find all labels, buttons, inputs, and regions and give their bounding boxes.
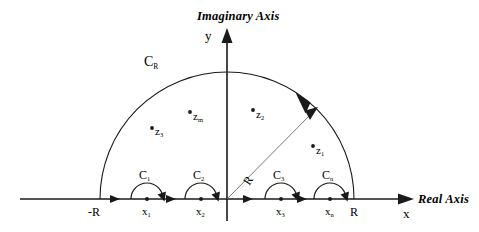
axis-direction-arrow-1 [110,195,120,203]
axis-pole-label-x1-text: x [142,205,148,217]
small-arc-label-Cn-text: C [322,168,330,182]
axis-pole-label-x2: x2 [196,206,205,217]
axis-pole-label-xn-text: x [325,205,331,217]
axis-pole-label-xn-subscript: n [331,211,334,218]
small-arc-C2 [185,183,217,199]
pole-label-z3-subscript: 3 [160,131,163,138]
real-axis-label: Real Axis [418,193,469,206]
small-arc-label-C3: C3 [273,169,284,181]
pole-dot-z1 [311,144,315,148]
axis-pole-label-x2-text: x [196,205,202,217]
pole-label-z2: z2 [256,109,264,120]
small-arc-label-C2: C2 [193,169,204,181]
axis-direction-arrow-2 [166,195,176,203]
pole-point-x3 [279,197,283,201]
small-arc-C1 [131,183,163,199]
small-arc-label-C2-text: C [193,168,201,182]
small-arc-C2-arrowhead [212,192,221,202]
pole-dot-z2 [251,108,255,112]
axis-pole-label-x1-subscript: 1 [148,211,151,218]
pole-point-xn [328,197,332,201]
small-arc-label-C3-subscript: 3 [281,175,284,182]
small-arc-label-C2-subscript: 2 [201,175,204,182]
real-axis-variable: x [403,207,410,220]
contour-drawing [0,0,479,232]
complex-contour-figure: Imaginary Axis y Real Axis x CR R -R R C… [0,0,479,232]
large-arc-label: CR [144,55,158,69]
pole-dot-z3 [150,126,154,130]
pole-label-z2-subscript: 2 [261,114,264,121]
imaginary-axis-arrowhead [222,28,233,43]
axis-pole-label-x1: x1 [142,206,151,217]
small-arc-label-C3-text: C [273,168,281,182]
small-arc-label-Cn: Cn [322,169,333,181]
small-arc-C3 [265,183,297,199]
small-arc-label-C1-subscript: 1 [147,175,150,182]
pole-label-z1-subscript: 1 [321,150,324,157]
real-axis-arrowhead [398,194,414,205]
small-arc-Cn [314,183,346,199]
imaginary-axis-variable: y [205,29,212,42]
axis-pole-label-x3: x3 [276,206,285,217]
imaginary-axis-label: Imaginary Axis [197,10,280,23]
small-arc-label-C1: C1 [139,169,150,181]
radius-line [227,112,313,199]
large-arc-label-text: C [144,54,153,69]
axis-pole-label-xn: xn [325,206,334,217]
pole-label-zm-subscript: m [198,116,203,123]
pole-point-x2 [199,197,203,201]
small-arc-label-C1-text: C [139,168,147,182]
pole-label-z1: z1 [316,145,324,156]
pole-point-x1 [145,197,149,201]
axis-pole-label-x2-subscript: 2 [202,211,205,218]
axis-pole-label-x3-text: x [276,205,282,217]
axis-direction-arrow-3 [243,195,253,203]
axis-pole-label-x3-subscript: 3 [282,211,285,218]
pole-label-z3: z3 [155,126,163,137]
small-arc-Cn-arrowhead [341,192,350,202]
left-endpoint-label: -R [88,206,100,218]
pole-dot-zm [188,110,192,114]
small-arc-label-Cn-subscript: n [330,175,333,182]
pole-label-zm: zm [193,111,203,122]
large-arc-label-subscript: R [153,62,158,71]
right-endpoint-label: R [350,206,358,218]
small-arc-C1-arrowhead [158,192,167,202]
